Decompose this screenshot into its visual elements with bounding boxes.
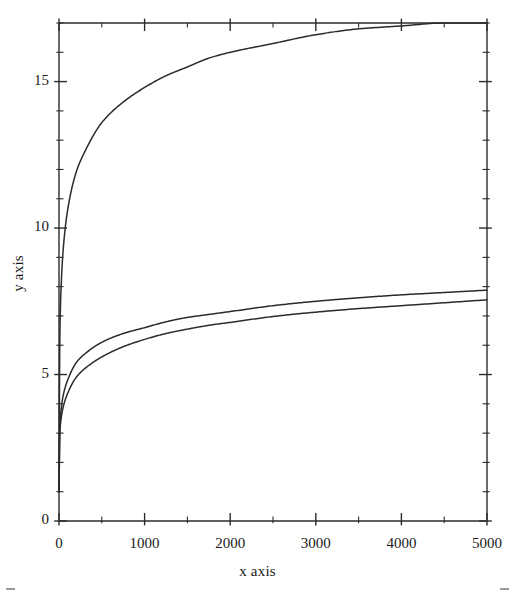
x-tick-label: 0 — [24, 535, 94, 552]
curve-series-1 — [59, 290, 487, 492]
curve-series-0 — [59, 23, 487, 492]
x-tick-label: 1000 — [110, 535, 180, 552]
data-curves — [59, 23, 487, 492]
plot-canvas — [0, 0, 515, 600]
y-tick-label: 15 — [5, 72, 49, 89]
plot-frame — [59, 23, 487, 521]
y-axis-label: y axis — [10, 234, 27, 314]
y-tick-label: 0 — [5, 511, 49, 528]
chart-figure: 010002000300040005000051015 x axis y axi… — [0, 0, 515, 600]
x-axis-label: x axis — [0, 563, 515, 580]
x-tick-label: 3000 — [281, 535, 351, 552]
axis-ticks — [54, 19, 492, 526]
x-tick-label: 2000 — [195, 535, 265, 552]
bottom-right-corner-mark — [500, 588, 509, 590]
x-tick-label: 5000 — [452, 535, 515, 552]
y-tick-label: 5 — [5, 365, 49, 382]
y-tick-label: 10 — [5, 218, 49, 235]
curve-series-2 — [59, 300, 487, 492]
x-tick-label: 4000 — [366, 535, 436, 552]
bottom-left-corner-mark — [6, 588, 15, 590]
